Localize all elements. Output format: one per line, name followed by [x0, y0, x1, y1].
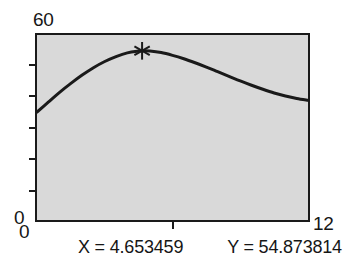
y-coordinate-readout: Y = 54.873814 [227, 238, 342, 256]
data-curve [37, 51, 308, 112]
function-plot-viewer: 60 0 0 12 X = 4.653459 Y = 54.873814 [0, 0, 350, 257]
x-axis-max-label: 12 [313, 214, 334, 233]
y-axis-max-label: 60 [33, 10, 54, 29]
coordinate-readout: X = 4.653459 Y = 54.873814 [78, 236, 342, 257]
x-axis-tick [172, 222, 174, 229]
plot-frame[interactable]: X = 4.653459 Y = 54.873814 [35, 33, 310, 222]
x-coordinate-readout: X = 4.653459 [78, 238, 183, 256]
x-axis-min-label: 0 [19, 222, 29, 241]
plot-canvas[interactable] [37, 35, 308, 220]
